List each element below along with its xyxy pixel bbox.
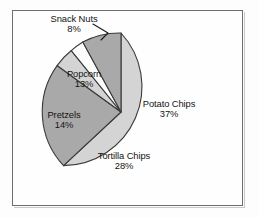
slice-label-snack-nuts: Snack Nuts 8% xyxy=(36,14,112,34)
slice-label-potato-chips-value: 37% xyxy=(133,109,205,119)
slice-label-tortilla-chips: Tortilla Chips 28% xyxy=(84,151,164,171)
slice-label-pretzels: Pretzels 14% xyxy=(38,110,90,130)
slice-label-snack-nuts-value: 8% xyxy=(36,24,112,34)
slice-label-popcorn-value: 13% xyxy=(56,79,112,89)
slice-label-pretzels-value: 14% xyxy=(38,120,90,130)
chart-canvas: Potato Chips 37% Tortilla Chips 28% Pret… xyxy=(0,0,259,218)
slice-label-tortilla-chips-value: 28% xyxy=(84,161,164,171)
slice-label-popcorn: Popcorn 13% xyxy=(56,69,112,89)
slice-label-potato-chips: Potato Chips 37% xyxy=(133,99,205,119)
